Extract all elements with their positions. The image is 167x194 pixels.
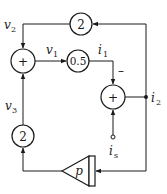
label-is: i s [109,144,118,160]
gain-block-top: 2 [70,13,92,35]
junction-dot [144,95,148,99]
minus-sign: – [118,64,124,78]
svg-text:i: i [109,144,113,158]
summer-right-sign: + [108,91,118,105]
svg-text:1: 1 [53,50,58,59]
amplifier-label: p [75,164,83,178]
gain-bottom-label: 2 [19,130,27,144]
label-i1: i 1 [98,43,108,59]
amplifier-block: p [62,156,95,186]
block-diagram: 2 + 0.5 + 2 p v 2 v 1 v 3 i 1 [0,0,167,194]
label-i2: i 2 [151,91,161,107]
svg-text:v: v [4,18,11,32]
wire-i2-bottom [96,97,146,171]
svg-text:v: v [5,99,12,113]
svg-text:1: 1 [103,50,108,59]
gain-top-label: 2 [77,18,85,32]
svg-text:i: i [98,43,102,57]
svg-text:2: 2 [11,25,16,34]
svg-text:v: v [46,43,53,57]
wire-i1 [89,61,113,84]
source-terminal [111,135,115,139]
svg-text:2: 2 [156,98,161,107]
gain-block-bottom: 2 [12,125,34,147]
label-v3: v 3 [5,99,17,115]
summer-right: + [101,85,125,109]
gain-block-mid: 0.5 [67,50,89,72]
wire-amp-out [23,148,62,171]
summer-left: + [11,49,35,73]
label-v2: v 2 [4,18,16,34]
summer-left-sign: + [18,55,28,69]
svg-text:3: 3 [12,106,17,115]
label-v1: v 1 [46,43,58,59]
svg-text:s: s [114,151,118,160]
svg-text:i: i [151,91,155,105]
gain-mid-label: 0.5 [70,55,87,67]
